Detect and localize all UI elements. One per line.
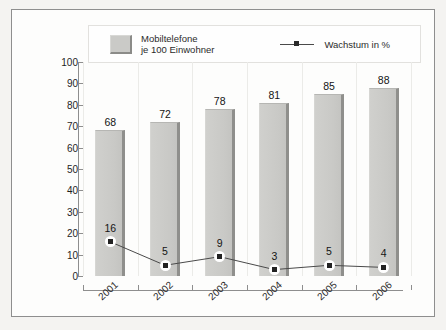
y-axis-tick-label: 20	[44, 228, 78, 239]
line-data-point-marker	[269, 264, 280, 275]
x-axis-tick-mark	[356, 285, 357, 290]
line-value-label: 16	[95, 222, 125, 234]
y-axis-labels: 1009080706050403020100	[36, 62, 78, 276]
y-axis-tick-label: 80	[44, 99, 78, 110]
y-axis-tick-label: 90	[44, 78, 78, 89]
x-axis-tick-mark	[411, 285, 412, 290]
y-axis-tick-label: 70	[44, 121, 78, 132]
x-axis-tick-mark	[192, 285, 193, 290]
line-data-point-marker	[160, 260, 171, 271]
x-axis-line	[83, 290, 403, 291]
y-axis-tick-label: 40	[44, 185, 78, 196]
x-axis-tick-mark	[302, 285, 303, 290]
x-axis-tick-label: 2003	[206, 279, 230, 302]
y-axis-tick-label: 50	[44, 164, 78, 175]
y-axis-tick-label: 100	[44, 57, 78, 68]
line-value-label: 5	[150, 245, 180, 257]
scanned-page-background: Mobiltelefone je 100 Einwohner Wachstum …	[0, 0, 446, 330]
y-axis-tick-label: 10	[44, 249, 78, 260]
vertical-gridline	[411, 62, 412, 276]
x-axis-tick-mark	[247, 285, 248, 290]
plot-region: 1009080706050403020100 68727881858816593…	[12, 10, 436, 318]
chart-outer-frame: Mobiltelefone je 100 Einwohner Wachstum …	[11, 9, 435, 317]
y-axis-tick-label: 0	[44, 271, 78, 282]
line-value-label: 3	[259, 250, 289, 262]
y-axis-tick-label: 30	[44, 206, 78, 217]
line-data-point-marker	[105, 236, 116, 247]
x-axis-tick-mark	[138, 285, 139, 290]
y-axis-tick-label: 60	[44, 142, 78, 153]
line-value-label: 5	[314, 245, 344, 257]
plot-canvas: 6872788185881659354	[83, 62, 411, 276]
x-axis-tick-mark	[83, 285, 84, 290]
line-value-label: 4	[369, 247, 399, 259]
line-data-point-marker	[324, 260, 335, 271]
y-axis-tick-mark	[78, 276, 83, 277]
line-value-label: 9	[205, 237, 235, 249]
growth-line-path	[83, 62, 411, 276]
x-axis-tick-label: 2006	[370, 279, 394, 302]
